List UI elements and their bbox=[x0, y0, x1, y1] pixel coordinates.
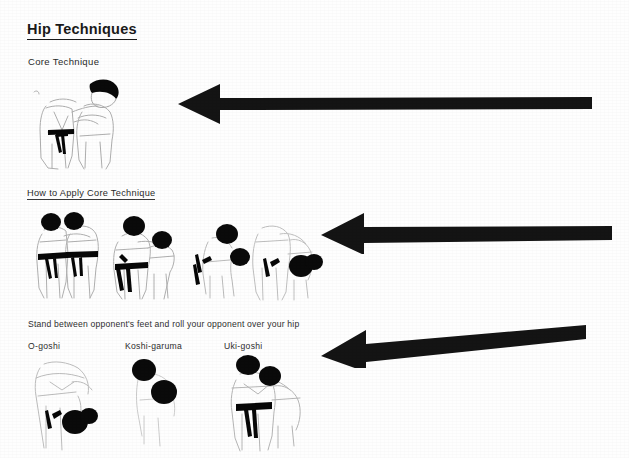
judo-throw-sequence-figure-2 bbox=[108, 212, 184, 300]
judo-grip-figure bbox=[28, 72, 138, 172]
judo-hip-throw-figure-o-goshi bbox=[28, 356, 114, 452]
section-caption-stand-between: Stand between opponent's feet and roll y… bbox=[28, 319, 299, 329]
judo-hip-throw-figure-koshi-garuma bbox=[124, 356, 200, 448]
annotation-arrow-core bbox=[172, 82, 597, 126]
document-page: Hip Techniques Core Technique bbox=[0, 0, 629, 458]
judo-throw-sequence-figure-4 bbox=[244, 210, 324, 302]
throw-label-koshi-garuma: Koshi-garuma bbox=[125, 341, 182, 351]
annotation-arrow-variations bbox=[316, 320, 591, 368]
throw-label-o-goshi: O-goshi bbox=[28, 341, 60, 351]
section-heading-core-technique: Core Technique bbox=[28, 56, 99, 67]
judo-hip-throw-figure-uki-goshi bbox=[222, 354, 314, 454]
annotation-arrow-apply bbox=[316, 210, 616, 254]
section-heading-how-to-apply: How to Apply Core Technique bbox=[27, 188, 155, 200]
page-title: Hip Techniques bbox=[27, 22, 137, 40]
throw-label-uki-goshi: Uki-goshi bbox=[224, 341, 263, 351]
judo-throw-sequence-figure-1 bbox=[30, 210, 108, 300]
